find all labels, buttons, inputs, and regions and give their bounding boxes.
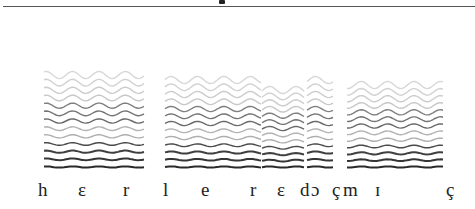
ipa-symbol: d (300, 179, 310, 201)
segment-3 (262, 86, 304, 167)
ipa-symbol: e (201, 179, 209, 201)
spectrogram (0, 0, 475, 175)
ipa-symbol: ç (332, 179, 340, 201)
ipa-symbol: ç (446, 179, 454, 201)
ipa-symbol: ɪ (375, 179, 380, 201)
segment-2 (165, 76, 261, 167)
ipa-symbol: r (123, 179, 129, 201)
segment-4 (307, 76, 333, 167)
segment-1 (44, 71, 144, 167)
ipa-symbol: r (250, 179, 256, 201)
ipa-symbol: ɔ (311, 179, 319, 201)
segment-5 (347, 81, 443, 167)
ipa-symbol: h (38, 179, 48, 201)
ipa-symbol: ɛ (78, 179, 86, 201)
ipa-symbol: m (343, 179, 358, 201)
transcription-row: hɛrlerɛdɔçmɪç (0, 179, 475, 203)
ipa-symbol: ɛ (277, 179, 285, 201)
ipa-symbol: l (163, 179, 168, 201)
